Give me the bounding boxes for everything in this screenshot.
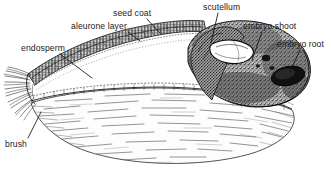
label-embryo-shoot: embryo shoot <box>243 21 296 31</box>
grain-anatomy-figure: seed coat aleurone layer endosperm scute… <box>0 0 331 170</box>
label-endosperm: endosperm <box>21 43 65 53</box>
label-brush: brush <box>5 139 27 149</box>
label-scutellum: scutellum <box>203 2 240 12</box>
label-aleurone-layer: aleurone layer <box>71 21 127 31</box>
embryo-region <box>186 21 318 107</box>
leader-brush <box>28 112 41 138</box>
label-seed-coat: seed coat <box>113 8 151 18</box>
label-embryo-root: embryo root <box>277 39 324 49</box>
